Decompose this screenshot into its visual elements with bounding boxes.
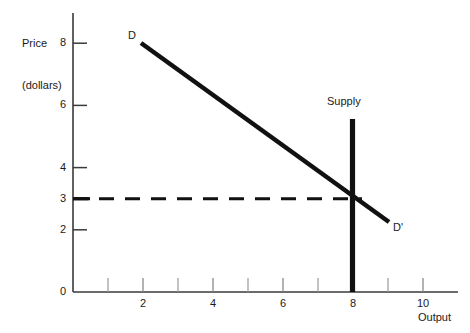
demand-end-label: D' (393, 221, 403, 234)
y-tick-label-3: 3 (44, 192, 66, 205)
x-tick-label-8: 8 (341, 297, 365, 310)
demand-start-label: D (128, 29, 136, 42)
x-axis-title: Output (418, 311, 451, 324)
y-axis-title-line2: (dollars) (22, 78, 62, 92)
supply-demand-chart: Price (dollars) Output 8 6 4 3 2 0 2 4 6… (0, 0, 470, 333)
x-axis-major-ticks (143, 278, 423, 292)
y-tick-label-6: 6 (44, 98, 66, 111)
plot-area (0, 0, 470, 333)
supply-label: Supply (327, 95, 361, 108)
axes (73, 13, 458, 292)
x-tick-label-4: 4 (201, 297, 225, 310)
x-tick-label-2: 2 (131, 297, 155, 310)
y-tick-label-8: 8 (44, 36, 66, 49)
x-axis-minor-ticks (108, 278, 388, 292)
y-tick-label-4: 4 (44, 161, 66, 174)
x-tick-label-10: 10 (411, 297, 435, 310)
y-tick-label-0: 0 (44, 285, 66, 298)
x-tick-label-6: 6 (271, 297, 295, 310)
y-axis-ticks (73, 43, 87, 230)
y-tick-label-2: 2 (44, 223, 66, 236)
